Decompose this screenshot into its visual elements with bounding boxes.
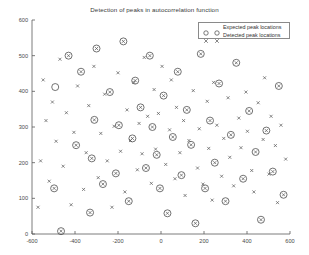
detected-peak-marker — [150, 182, 153, 185]
detected-peak-marker — [55, 140, 58, 143]
detected-peak-marker — [143, 56, 146, 59]
detected-peak-marker — [263, 76, 266, 79]
detected-peak-marker — [141, 152, 144, 155]
detected-peak-marker — [218, 82, 221, 85]
detected-peak-marker — [204, 187, 207, 190]
detected-peak-marker — [106, 159, 109, 162]
detected-peak-marker — [190, 143, 193, 146]
detected-peak-marker — [274, 144, 277, 147]
detected-peak-marker — [284, 158, 287, 161]
detected-peak-marker — [229, 133, 232, 136]
detected-peak-marker — [103, 93, 106, 96]
detected-peak-marker — [122, 40, 125, 43]
detected-peak-marker — [228, 156, 231, 159]
y-tick-label: 600 — [19, 17, 28, 23]
figure-container: Detection of peaks in autocorrelation fu… — [0, 0, 309, 255]
detected-peak-marker — [166, 212, 169, 215]
detected-peak-marker — [99, 132, 102, 135]
detected-peak-marker — [37, 206, 40, 209]
detected-peak-marker — [265, 129, 268, 132]
detected-peak-marker — [67, 54, 70, 57]
detected-peak-marker — [161, 65, 164, 68]
y-tick-label: 100 — [19, 195, 28, 201]
detected-peak-marker — [227, 96, 230, 99]
detected-peak-marker — [76, 84, 79, 87]
detected-peak-marker — [270, 115, 273, 118]
detected-peak-marker — [117, 71, 120, 74]
detected-peak-marker — [93, 118, 96, 121]
y-tick-label: 0 — [25, 231, 28, 237]
detected-peak-marker — [85, 151, 88, 154]
detected-peak-marker — [178, 151, 181, 154]
detected-peak-marker — [192, 89, 195, 92]
detected-peak-marker — [158, 187, 161, 190]
legend-item-expected: Expected peak locations — [201, 23, 281, 31]
detected-peaks-series — [37, 40, 288, 233]
detected-peak-marker — [271, 170, 274, 173]
detected-peak-marker — [157, 112, 160, 115]
expected-peak-marker — [52, 84, 59, 91]
legend: Expected peak locations Detected peak lo… — [198, 22, 290, 39]
detected-peak-marker — [53, 187, 56, 190]
legend-item-detected: Detected peak locations — [201, 31, 281, 39]
detected-peak-marker — [148, 54, 151, 57]
detected-peak-marker — [89, 211, 92, 214]
detected-peak-marker — [154, 148, 157, 151]
y-tick-label: 200 — [19, 160, 28, 166]
detected-peak-marker — [117, 124, 120, 127]
detected-peak-marker — [196, 167, 199, 170]
detected-peak-marker — [276, 201, 279, 204]
detected-peak-marker — [42, 78, 45, 81]
detected-peak-marker — [176, 70, 179, 73]
y-tick-label: 400 — [19, 88, 28, 94]
detected-peak-marker — [127, 200, 130, 203]
detected-peak-marker — [82, 188, 85, 191]
detected-peak-marker — [209, 119, 212, 122]
detected-peak-marker — [259, 218, 262, 221]
detected-peak-marker — [87, 104, 90, 107]
x-tick-label: 400 — [242, 238, 251, 244]
detected-peak-marker — [144, 167, 147, 170]
detected-peak-marker — [110, 206, 113, 209]
detected-peak-marker — [58, 58, 61, 61]
detected-peak-marker — [185, 108, 188, 111]
expected-peaks-series — [51, 38, 287, 235]
detected-peak-marker — [173, 177, 176, 180]
detected-peak-marker — [252, 190, 255, 193]
detected-peak-marker — [212, 81, 215, 84]
detected-peak-marker — [235, 61, 238, 64]
detected-peak-marker — [279, 124, 282, 127]
detected-peak-marker — [224, 200, 227, 203]
detected-peak-marker — [222, 137, 225, 140]
detected-peak-marker — [194, 222, 197, 225]
detected-peak-marker — [168, 128, 171, 131]
detected-peak-marker — [164, 163, 167, 166]
detected-peak-marker — [101, 183, 104, 186]
x-tick-label: -400 — [69, 238, 80, 244]
detected-peak-marker — [175, 106, 178, 109]
detected-peak-marker — [44, 119, 47, 122]
detected-peak-marker — [65, 111, 68, 114]
detected-peak-marker — [215, 124, 218, 127]
detected-peak-marker — [237, 117, 240, 120]
detected-peak-marker — [242, 177, 245, 180]
detected-peak-marker — [184, 194, 187, 197]
detected-peak-marker — [170, 78, 173, 81]
detected-peak-marker — [198, 127, 201, 130]
x-marker — [201, 31, 223, 39]
detected-peak-marker — [75, 144, 78, 147]
detected-peak-marker — [171, 135, 174, 138]
detected-peak-marker — [151, 126, 154, 129]
detected-peak-marker — [119, 150, 122, 153]
detected-peak-marker — [80, 70, 83, 73]
detected-peak-marker — [126, 108, 129, 111]
detected-peak-marker — [72, 131, 75, 134]
detected-peak-marker — [60, 230, 63, 233]
detected-peak-marker — [244, 91, 247, 94]
detected-peak-marker — [138, 122, 141, 125]
x-tick-label: -200 — [112, 238, 123, 244]
detected-peak-marker — [162, 94, 165, 97]
legend-label-expected: Expected peak locations — [223, 23, 281, 31]
detected-peak-marker — [90, 157, 93, 160]
detected-peak-marker — [207, 147, 210, 150]
